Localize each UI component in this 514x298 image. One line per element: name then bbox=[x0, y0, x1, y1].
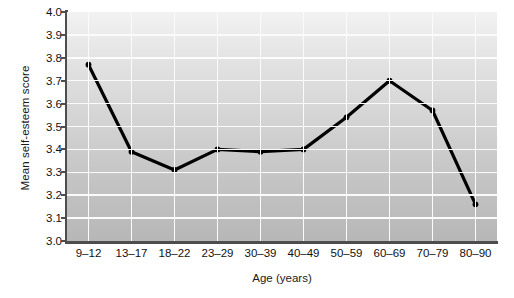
vertical-gridline bbox=[217, 12, 219, 241]
vertical-gridline bbox=[303, 12, 305, 241]
vertical-gridline bbox=[260, 12, 262, 241]
y-tick-label: 3.0 bbox=[46, 235, 62, 247]
series-line bbox=[89, 65, 476, 205]
y-tick-label: 3.7 bbox=[46, 75, 62, 87]
y-tick-label: 3.3 bbox=[46, 166, 62, 178]
chart-figure: Mean self-esteem score 4.03.93.83.73.63.… bbox=[0, 0, 514, 298]
y-tick-label: 3.8 bbox=[46, 52, 62, 64]
y-tick-label: 3.9 bbox=[46, 29, 62, 41]
x-tick-label: 80–90 bbox=[460, 247, 492, 259]
x-tick-label: 60–69 bbox=[374, 247, 406, 259]
x-tick-label: 40–49 bbox=[288, 247, 320, 259]
y-tick-label: 3.2 bbox=[46, 189, 62, 201]
y-tick-label: 3.1 bbox=[46, 212, 62, 224]
vertical-gridline bbox=[346, 12, 348, 241]
y-tick-label: 4.0 bbox=[46, 6, 62, 18]
plot-area bbox=[67, 12, 497, 241]
vertical-gridline bbox=[475, 12, 477, 241]
y-tick-label: 3.4 bbox=[46, 143, 62, 155]
vertical-gridline bbox=[88, 12, 90, 241]
x-tick-label: 23–29 bbox=[202, 247, 234, 259]
x-tick-label: 70–79 bbox=[417, 247, 449, 259]
y-tick-label: 3.5 bbox=[46, 121, 62, 133]
x-axis-title: Age (years) bbox=[67, 272, 497, 284]
vertical-gridline bbox=[389, 12, 391, 241]
x-tick-label: 9–12 bbox=[76, 247, 102, 259]
vertical-gridline bbox=[131, 12, 133, 241]
x-axis-tick-labels: 9–1213–1718–2223–2930–3940–4950–5960–697… bbox=[67, 247, 497, 265]
x-axis-line bbox=[65, 241, 498, 244]
vertical-gridline bbox=[432, 12, 434, 241]
y-tick-label: 3.6 bbox=[46, 98, 62, 110]
y-axis-tick-labels: 4.03.93.83.73.63.53.43.33.23.13.0 bbox=[30, 12, 62, 241]
x-tick-label: 18–22 bbox=[159, 247, 191, 259]
x-tick-label: 13–17 bbox=[116, 247, 148, 259]
x-tick-label: 30–39 bbox=[245, 247, 277, 259]
vertical-gridline bbox=[174, 12, 176, 241]
x-tick-label: 50–59 bbox=[331, 247, 363, 259]
